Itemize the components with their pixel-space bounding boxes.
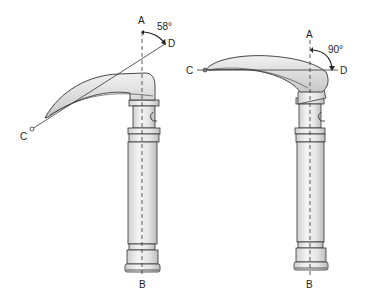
left-laryngoscope: A 58° D C B [20, 15, 175, 290]
left-angle-label: 58° [157, 21, 172, 32]
right-laryngoscope: A 90° D C B [186, 29, 347, 290]
left-label-c: C [20, 131, 27, 142]
laryngoscope-diagram: A 58° D C B [0, 0, 368, 307]
right-label-a: A [306, 29, 313, 40]
left-point-c [30, 127, 34, 131]
right-handle [294, 98, 328, 270]
left-label-d: D [168, 38, 175, 49]
left-handle [125, 100, 160, 272]
left-angle-arrow-icon [144, 32, 164, 42]
right-label-c: C [186, 65, 193, 76]
right-angle-label: 90° [328, 44, 343, 55]
right-point-c [203, 68, 207, 72]
right-label-d: D [340, 65, 347, 76]
left-label-b: B [139, 279, 146, 290]
right-label-b: B [306, 279, 313, 290]
left-label-a: A [138, 15, 145, 26]
